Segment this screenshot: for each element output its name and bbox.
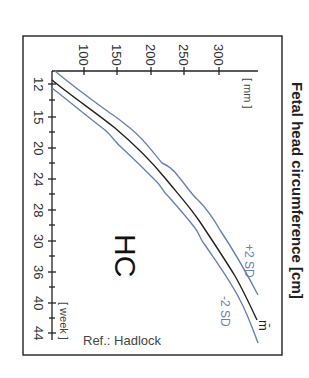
y-axis-tick-labels: 100 150 200 250 300 — [76, 44, 226, 66]
svg-text:24: 24 — [31, 172, 46, 186]
mean-label: m̄ — [256, 320, 271, 331]
x-axis-unit: [ week ] — [58, 302, 70, 340]
svg-text:300: 300 — [211, 44, 226, 66]
svg-text:200: 200 — [143, 44, 158, 66]
chart-title: Fetal head circumference [cm] — [289, 82, 306, 299]
svg-text:12: 12 — [31, 77, 46, 91]
mean-curve — [52, 80, 257, 320]
plus-2sd-curve — [55, 71, 258, 295]
y-axis-unit: [ mm ] — [242, 78, 254, 109]
svg-text:250: 250 — [176, 44, 191, 66]
x-axis-tick-labels: 12 15 20 24 28 30 36 40 44 — [31, 77, 46, 340]
reference-label: Ref.: Hadlock — [83, 333, 162, 348]
hc-label: HC — [109, 234, 142, 277]
svg-text:150: 150 — [109, 44, 124, 66]
chart-svg: Fetal head circumference [cm] 100 150 20… — [0, 0, 309, 378]
svg-text:36: 36 — [31, 265, 46, 279]
svg-text:28: 28 — [31, 203, 46, 217]
minus-2sd-label: -2 SD — [218, 296, 232, 327]
svg-text:20: 20 — [31, 141, 46, 155]
svg-text:44: 44 — [31, 326, 46, 340]
svg-text:40: 40 — [31, 296, 46, 310]
svg-text:15: 15 — [31, 110, 46, 124]
svg-text:30: 30 — [31, 234, 46, 248]
svg-text:100: 100 — [76, 44, 91, 66]
plus-2sd-label: +2 SD — [242, 244, 256, 278]
